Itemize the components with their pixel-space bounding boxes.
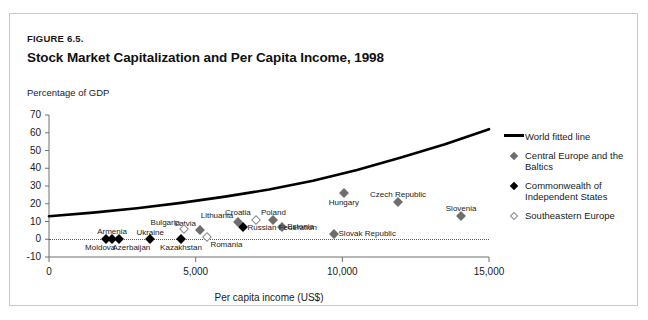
data-point-label: Russian Federation [248,223,317,232]
data-point-label: Romania [210,240,242,249]
legend-swatch [503,150,525,159]
x-tick-label: 5,000 [156,266,236,277]
legend-label: Commonwealth of Independent States [525,180,635,203]
data-point-label: Armenia [97,227,127,236]
x-tick-label: 15,000 [449,266,529,277]
legend-swatch [503,180,525,189]
legend-label: Central Europe and the Baltics [525,150,635,173]
y-tick-label: 70 [15,109,41,120]
legend-diamond-icon [510,181,518,189]
legend-item[interactable]: World fitted line [503,131,635,143]
data-point-label: Ukraine [136,228,164,237]
data-point-label: Slovak Republic [339,229,396,238]
legend-swatch [503,131,525,137]
y-tick-label: 0 [15,233,41,244]
data-point-label: Poland [261,208,286,217]
legend-item[interactable]: Commonwealth of Independent States [503,180,635,203]
data-point-label: Slovenia [446,204,477,213]
data-point-label: Kazakhstan [160,243,202,252]
chart-legend: World fitted lineCentral Europe and the … [503,131,635,228]
data-point-label: Croatia [225,208,251,217]
y-tick-label: 50 [15,145,41,156]
data-point-label: Moldova [85,243,115,252]
y-tick-label: -10 [15,251,41,262]
legend-swatch [503,210,525,219]
legend-label: Southeastern Europe [525,210,615,222]
legend-diamond-icon [510,151,518,159]
y-tick-label: 30 [15,180,41,191]
legend-label: World fitted line [525,131,590,143]
y-tick-label: 10 [15,216,41,227]
y-tick-label: 40 [15,162,41,173]
legend-item[interactable]: Central Europe and the Baltics [503,150,635,173]
legend-item[interactable]: Southeastern Europe [503,210,635,222]
y-tick-label: 20 [15,198,41,209]
x-axis-title: Per capita income (US$) [119,292,419,303]
x-tick-label: 0 [9,266,89,277]
data-point-label: Azerbaijan [112,243,150,252]
legend-line-icon [504,134,524,137]
data-point-label: Bulgaria [151,218,180,227]
data-point-label: Czech Republic [370,190,426,199]
x-tick-label: 10,000 [302,266,382,277]
legend-diamond-icon [510,211,518,219]
y-tick-label: 60 [15,127,41,138]
data-point-label: Hungary [329,198,359,207]
